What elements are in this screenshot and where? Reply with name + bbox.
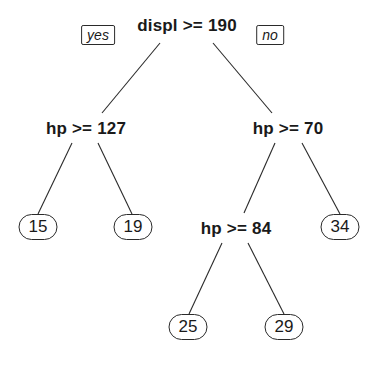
leaf-node-15: 15 [19, 214, 58, 240]
tree-edges [0, 0, 376, 365]
split-hp-84: hp >= 84 [201, 220, 272, 237]
leaf-value: 34 [331, 217, 350, 237]
root-split-displ: displ >= 190 [137, 17, 237, 34]
leaf-node-34: 34 [321, 214, 360, 240]
split-hp-127: hp >= 127 [46, 120, 126, 137]
edge-n3-n7 [244, 143, 275, 213]
edge-n7-leaf29 [248, 243, 284, 314]
split-hp-70: hp >= 70 [253, 120, 324, 137]
leaf-node-19: 19 [114, 214, 153, 240]
leaf-node-29: 29 [265, 314, 304, 340]
leaf-value: 29 [275, 317, 294, 337]
edge-root-n2 [102, 43, 160, 113]
edge-n7-leaf25 [189, 243, 222, 314]
edge-n3-leaf34 [302, 143, 340, 214]
no-branch-label: no [256, 25, 284, 45]
yes-branch-label: yes [81, 25, 115, 45]
leaf-value: 19 [124, 217, 143, 237]
edge-n2-leaf19 [98, 143, 132, 214]
leaf-value: 15 [29, 217, 48, 237]
leaf-value: 25 [179, 317, 198, 337]
edge-n2-leaf15 [38, 143, 72, 214]
edge-root-n3 [213, 43, 272, 113]
leaf-node-25: 25 [169, 314, 208, 340]
